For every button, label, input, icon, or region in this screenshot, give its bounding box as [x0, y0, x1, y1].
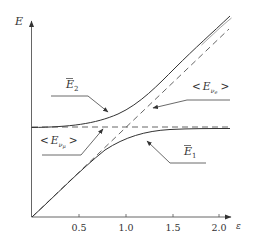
- arrow-e1: [147, 141, 206, 163]
- annotation-e-nue: <Eνe>: [153, 80, 230, 108]
- series-e2-curve: [32, 16, 231, 128]
- chart-canvas: 0.5 1.0 1.5 2.0 E ε E2 <Eνe> <Eνμ>: [0, 0, 253, 245]
- tick-label-1-0: 1.0: [118, 222, 133, 233]
- annotation-e1: E1: [147, 141, 206, 163]
- tick-label-1-5: 1.5: [165, 222, 180, 233]
- y-axis-label: E: [14, 15, 23, 28]
- annotation-e2: E2: [51, 78, 108, 112]
- tick-label-2-0: 2.0: [211, 222, 226, 233]
- x-tick-labels: 0.5 1.0 1.5 2.0: [71, 222, 226, 233]
- x-axis-label: ε: [236, 221, 241, 231]
- label-e1: E1: [183, 145, 197, 160]
- label-e-numu: <Eνμ>: [40, 134, 78, 150]
- annotation-e-numu: <Eνμ>: [40, 129, 103, 155]
- arrow-e2: [51, 96, 108, 112]
- arrow-e-nue: [153, 100, 230, 108]
- label-e-nue: <Eνe>: [192, 80, 229, 95]
- tick-label-0-5: 0.5: [71, 222, 86, 233]
- label-e2: E2: [65, 78, 79, 93]
